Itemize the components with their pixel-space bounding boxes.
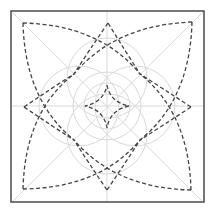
construction-guides [12,12,204,202]
outer-petal-right-bottom-edge [140,107,191,140]
corner-petal-top-left-lower [23,23,74,140]
rosette-diagram [0,0,215,212]
